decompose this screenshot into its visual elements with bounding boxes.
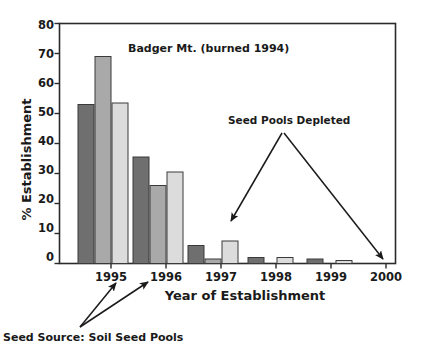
bar-group-1996 bbox=[133, 157, 183, 264]
bar-1996-medium bbox=[150, 186, 166, 264]
bar-group-1998 bbox=[248, 258, 293, 264]
bar-1997-dark bbox=[188, 246, 204, 264]
bar-1997-light bbox=[222, 241, 238, 264]
bar-1996-light bbox=[167, 172, 183, 264]
bar-1996-dark bbox=[133, 157, 149, 264]
bar-1997-medium bbox=[205, 259, 221, 264]
chart-figure: % Establishment Year of Establishment Ba… bbox=[0, 0, 426, 354]
annotation-arrows-depleted bbox=[231, 133, 383, 259]
bar-1995-dark bbox=[78, 105, 94, 264]
bar-1995-light bbox=[112, 103, 128, 264]
annotation-arrows-seed-source bbox=[80, 282, 148, 327]
bar-1999-light bbox=[336, 261, 352, 264]
bar-group-1997 bbox=[188, 241, 238, 264]
bar-1995-medium bbox=[95, 57, 111, 264]
plot-canvas bbox=[0, 0, 426, 354]
bar-group-1995 bbox=[78, 57, 128, 264]
bar-1999-dark bbox=[307, 259, 323, 264]
bar-1998-dark bbox=[248, 258, 264, 264]
bar-1998-light bbox=[277, 258, 293, 264]
